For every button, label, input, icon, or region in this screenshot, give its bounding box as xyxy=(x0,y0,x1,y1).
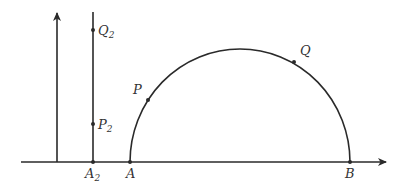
semicircle-arc xyxy=(130,49,350,162)
point-q xyxy=(292,60,296,64)
point-a2 xyxy=(91,160,95,164)
point-p xyxy=(146,98,150,102)
label-b: B xyxy=(344,166,355,181)
label-q: Q xyxy=(300,43,311,58)
label-a2: A2 xyxy=(84,166,100,183)
point-p2 xyxy=(91,122,95,126)
label-p: P xyxy=(132,82,142,97)
point-b xyxy=(348,160,352,164)
label-a: A xyxy=(125,166,135,181)
label-p2: P2 xyxy=(97,117,113,134)
diagram-canvas: Q2 P2 A2 A P Q B xyxy=(0,0,404,185)
point-q2 xyxy=(91,28,95,32)
label-q2: Q2 xyxy=(98,23,115,40)
point-a xyxy=(128,160,132,164)
